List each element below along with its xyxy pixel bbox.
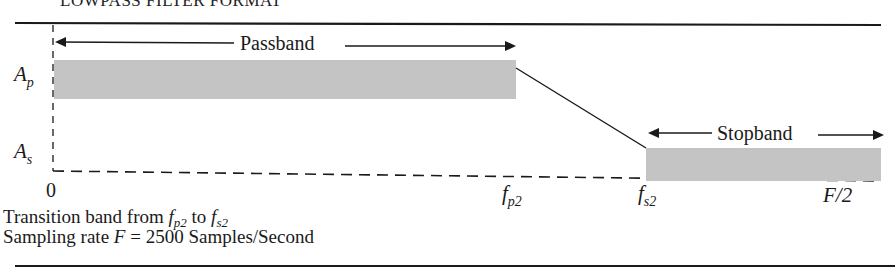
passband-bar [54,60,516,99]
caption-transition: Transition band from fp2 to fs2 [3,207,228,226]
stopband-bar [646,148,881,181]
stopband-arrow-left [648,128,659,138]
stopband-label: Stopband [713,123,797,143]
transition-slope [516,68,646,148]
caption-sampling-rate: Sampling rate F = 2500 Samples/Second [3,227,314,246]
x-label-nyquist: F/2 [823,185,852,206]
stopband-arrow-right [873,130,884,140]
x-label-fs2: fs2 [638,183,656,204]
passband-label: Passband [236,33,318,53]
y-label-as: As [14,141,32,162]
x-label-zero: 0 [46,180,56,200]
y-label-ap: Ap [14,64,34,85]
passband-arrow-left [55,37,66,47]
top-rule [15,23,881,25]
passband-arrow-right [505,41,516,51]
x-label-fp2: fp2 [502,183,522,204]
